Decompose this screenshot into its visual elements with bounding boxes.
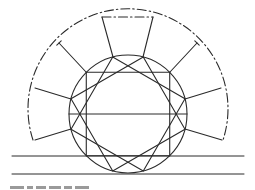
clipped-caption [10,186,105,190]
outer-dash-dot-arc [28,9,228,140]
spoke-line [59,43,86,72]
spoke-line [35,88,71,99]
spoke-line [102,17,113,57]
geometric-diagram [0,0,255,190]
radial-spokes [35,17,222,140]
spoke-line [35,129,71,140]
spoke-line [185,88,221,99]
spoke-line [170,43,197,72]
outer-arc-path [28,9,228,140]
spoke-line [143,17,153,57]
base-lines [12,156,244,174]
spoke-line [185,129,222,140]
